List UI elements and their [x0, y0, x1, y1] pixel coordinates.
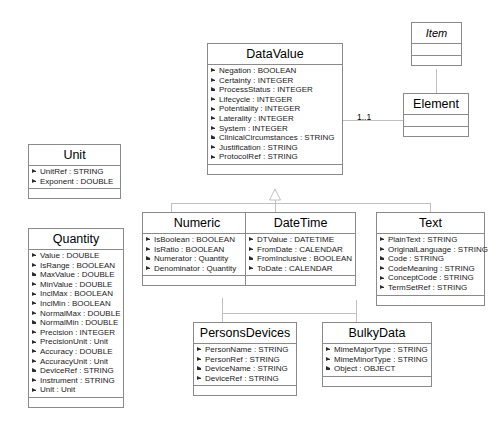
- class-attribute: NormalMin : DOUBLE: [29, 318, 123, 328]
- class-operations-datetime: [246, 276, 355, 285]
- class-attribute: Precision : INTEGER: [29, 328, 123, 338]
- element-mult: 1..1: [357, 112, 371, 122]
- class-attribute: Accuracy : DOUBLE: [29, 347, 123, 357]
- class-attribute: Lifecycle : INTEGER: [208, 95, 342, 105]
- uml-class-personsdevices[interactable]: PersonsDevicesPersonName : STRINGPersonR…: [193, 322, 297, 396]
- class-name-item: Item: [412, 23, 461, 44]
- class-attribute: Unit : Unit: [29, 385, 123, 395]
- uml-class-datavalue[interactable]: DataValueNegation : BOOLEANCertainty : I…: [207, 43, 343, 175]
- class-attribute: Denominator : Quantity: [143, 264, 251, 274]
- class-attribute: Object : OBJECT: [323, 364, 431, 374]
- class-attribute: PlainText : STRING: [377, 235, 484, 245]
- class-attribute: Laterality : INTEGER: [208, 114, 342, 124]
- class-attributes-quantity: Value : DOUBLEIsRange : BOOLEANMaxValue …: [29, 250, 123, 398]
- class-attribute: MimeMinorType : STRING: [323, 355, 431, 365]
- uml-class-datetime[interactable]: DateTimeDTValue : DATETIMEFromDate : CAL…: [245, 212, 356, 286]
- class-name-datavalue: DataValue: [208, 44, 342, 65]
- class-attribute: Code : STRING: [377, 254, 484, 264]
- class-attribute: CodeMeaning : STRING: [377, 264, 484, 274]
- class-operations-quantity: [29, 398, 123, 407]
- class-attribute: PrecisionUnit : Unit: [29, 337, 123, 347]
- class-attribute: AccuracyUnit : Unit: [29, 357, 123, 367]
- class-attribute: NormalMax : DOUBLE: [29, 309, 123, 319]
- class-operations-numeric: [143, 276, 251, 285]
- class-attribute: MinValue : DOUBLE: [29, 280, 123, 290]
- class-attribute: DeviceRef : STRING: [29, 366, 123, 376]
- class-attribute: PersonRef : STRING: [194, 355, 296, 365]
- class-operations-element: [404, 127, 468, 136]
- class-operations-datavalue: [208, 165, 342, 174]
- class-attributes-datavalue: Negation : BOOLEANCertainty : INTEGERPro…: [208, 65, 342, 165]
- class-attribute: Numerator : Quantity: [143, 254, 251, 264]
- class-attributes-item: [412, 44, 461, 56]
- class-name-quantity: Quantity: [29, 229, 123, 250]
- class-attribute: ClinicalCircumstances : STRING: [208, 133, 342, 143]
- class-attribute: OriginalLanguage : STRING: [377, 245, 484, 255]
- class-attributes-text: PlainText : STRINGOriginalLanguage : STR…: [377, 234, 484, 296]
- class-attribute: IsRatio : BOOLEAN: [143, 245, 251, 255]
- uml-class-unit[interactable]: UnitUnitRef : STRINGExponent : DOUBLE: [28, 144, 121, 199]
- class-operations-unit: [29, 189, 120, 198]
- class-operations-bulkydata: [323, 377, 431, 386]
- class-attribute: Exponent : DOUBLE: [29, 177, 120, 187]
- class-name-personsdevices: PersonsDevices: [194, 323, 296, 344]
- class-attributes-numeric: IsBoolean : BOOLEANIsRatio : BOOLEANNume…: [143, 234, 251, 276]
- class-attribute: InclMin : BOOLEAN: [29, 299, 123, 309]
- class-attribute: MaxValue : DOUBLE: [29, 270, 123, 280]
- class-attribute: Potentiality : INTEGER: [208, 104, 342, 114]
- class-attribute: FromInclusive : BOOLEAN: [246, 254, 355, 264]
- class-attributes-element: [404, 115, 468, 127]
- class-operations-personsdevices: [194, 386, 296, 395]
- class-name-numeric: Numeric: [143, 213, 251, 234]
- class-name-bulkydata: BulkyData: [323, 323, 431, 344]
- class-name-text: Text: [377, 213, 484, 234]
- uml-class-quantity[interactable]: QuantityValue : DOUBLEIsRange : BOOLEANM…: [28, 228, 124, 408]
- class-attribute: Justification : STRING: [208, 143, 342, 153]
- uml-class-element[interactable]: Element: [403, 93, 469, 137]
- class-attribute: MimeMajorType : STRING: [323, 345, 431, 355]
- class-attribute: Instrument : STRING: [29, 376, 123, 386]
- class-attribute: ProcessStatus : INTEGER: [208, 85, 342, 95]
- class-attribute: ProtocolRef : STRING: [208, 152, 342, 162]
- uml-diagram-canvas: ItemElementDataValueNegation : BOOLEANCe…: [0, 0, 502, 431]
- class-attribute: System : INTEGER: [208, 124, 342, 134]
- class-operations-item: [412, 56, 461, 65]
- class-attribute: TermSetRef : STRING: [377, 283, 484, 293]
- uml-class-bulkydata[interactable]: BulkyDataMimeMajorType : STRINGMimeMinor…: [322, 322, 432, 387]
- class-attribute: DeviceName : STRING: [194, 364, 296, 374]
- class-attribute: ToDate : CALENDAR: [246, 264, 355, 274]
- class-attribute: DeviceRef : STRING: [194, 374, 296, 384]
- class-attribute: Value : DOUBLE: [29, 251, 123, 261]
- class-attribute: IsBoolean : BOOLEAN: [143, 235, 251, 245]
- uml-class-text[interactable]: TextPlainText : STRINGOriginalLanguage :…: [376, 212, 485, 306]
- uml-class-numeric[interactable]: NumericIsBoolean : BOOLEANIsRatio : BOOL…: [142, 212, 252, 286]
- class-name-datetime: DateTime: [246, 213, 355, 234]
- class-attribute: PersonName : STRING: [194, 345, 296, 355]
- class-attributes-unit: UnitRef : STRINGExponent : DOUBLE: [29, 166, 120, 189]
- class-attribute: Negation : BOOLEAN: [208, 66, 342, 76]
- class-operations-text: [377, 296, 484, 305]
- class-name-element: Element: [404, 94, 468, 115]
- class-name-unit: Unit: [29, 145, 120, 166]
- class-attribute: FromDate : CALENDAR: [246, 245, 355, 255]
- class-attribute: UnitRef : STRING: [29, 167, 120, 177]
- class-attribute: IsRange : BOOLEAN: [29, 261, 123, 271]
- class-attributes-personsdevices: PersonName : STRINGPersonRef : STRINGDev…: [194, 344, 296, 386]
- class-attributes-datetime: DTValue : DATETIMEFromDate : CALENDARFro…: [246, 234, 355, 276]
- generalization-arrow-datavalue: [270, 189, 281, 200]
- class-attribute: DTValue : DATETIME: [246, 235, 355, 245]
- class-attribute: ConceptCode : STRING: [377, 273, 484, 283]
- class-attribute: InclMax : BOOLEAN: [29, 289, 123, 299]
- class-attribute: Certainty : INTEGER: [208, 76, 342, 86]
- class-attributes-bulkydata: MimeMajorType : STRINGMimeMinorType : ST…: [323, 344, 431, 377]
- uml-class-item[interactable]: Item: [411, 22, 462, 66]
